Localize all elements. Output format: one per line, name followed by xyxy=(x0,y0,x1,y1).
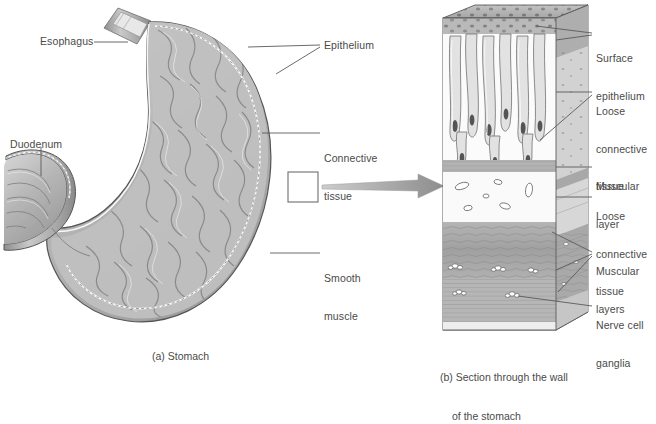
caption-panel-b-line1: (b) Section through the wall xyxy=(440,371,568,384)
label-nerve-cell-ganglia-line1: Nerve cell xyxy=(596,319,644,332)
caption-panel-b-line2: of the stomach xyxy=(440,410,568,423)
label-connective-tissue: Connective tissue xyxy=(324,127,378,227)
label-nerve-cell-ganglia: Nerve cell ganglia xyxy=(596,294,644,394)
label-loose-connective-lower-line1: Loose xyxy=(596,210,647,223)
label-smooth-muscle-line2: muscle xyxy=(324,310,361,323)
stomach-wall-block xyxy=(440,2,592,330)
caption-panel-a: (a) Stomach xyxy=(152,350,209,363)
label-esophagus: Esophagus xyxy=(40,35,93,48)
detail-box[interactable] xyxy=(288,172,318,202)
leader-epithelium-upper xyxy=(248,45,320,47)
label-loose-connective-upper-line1: Loose xyxy=(596,105,647,118)
label-connective-tissue-line1: Connective xyxy=(324,152,378,165)
label-smooth-muscle-line1: Smooth xyxy=(324,272,361,285)
label-epithelium: Epithelium xyxy=(324,39,374,52)
label-nerve-cell-ganglia-line2: ganglia xyxy=(596,357,644,370)
label-loose-connective-upper-line2: connective xyxy=(596,143,647,156)
label-muscular-layers-line1: Muscular xyxy=(596,265,639,278)
stomach-illustration xyxy=(4,8,320,330)
label-duodenum: Duodenum xyxy=(10,138,62,151)
esophagus-structure xyxy=(104,8,151,44)
label-smooth-muscle: Smooth muscle xyxy=(324,247,361,347)
leader-epithelium-lower xyxy=(276,47,320,74)
label-connective-tissue-line2: tissue xyxy=(324,190,378,203)
caption-panel-b: (b) Section through the wall of the stom… xyxy=(440,345,568,424)
label-surface-epithelium-line1: Surface xyxy=(596,52,645,65)
